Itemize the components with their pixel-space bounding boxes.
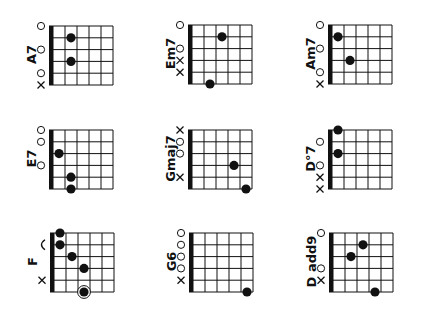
chord-diagram-d-add9: D add9	[0, 0, 421, 319]
open-string-icon	[317, 229, 324, 236]
finger-dot-icon	[346, 252, 355, 261]
nut-bar	[329, 233, 333, 293]
fretboard-grid	[313, 225, 403, 302]
open-string-icon	[317, 265, 324, 272]
finger-dot-icon	[370, 287, 379, 296]
muted-string-icon	[318, 277, 325, 284]
finger-dot-icon	[358, 240, 367, 249]
